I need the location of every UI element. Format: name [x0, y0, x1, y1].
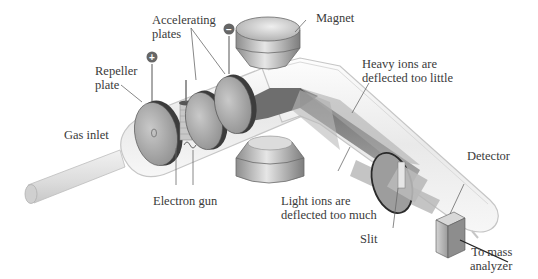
label-detector: Detector — [467, 149, 510, 163]
repeller-terminal: + — [147, 52, 158, 103]
label-slit: Slit — [360, 232, 377, 246]
label-light-ions: Light ions are deflected too much — [281, 194, 377, 222]
accelerator-terminal: − — [224, 24, 235, 75]
label-gas-inlet: Gas inlet — [64, 128, 109, 142]
label-electron-gun: Electron gun — [153, 194, 217, 208]
label-magnet: Magnet — [316, 11, 354, 25]
label-to-mass-analyzer: To mass analyzer — [470, 245, 512, 273]
detector — [436, 212, 465, 258]
label-repeller-plate: Repeller plate — [95, 64, 137, 92]
magnet-lower — [236, 136, 304, 183]
label-heavy-ions: Heavy ions are deflected too little — [362, 57, 453, 85]
minus-sign: − — [226, 24, 232, 35]
gas-inlet-pipe — [25, 150, 125, 204]
plus-sign: + — [149, 52, 155, 63]
label-accelerating-plates: Accelerating plates — [152, 13, 216, 41]
mass-spectrometer-diagram: + − — [0, 0, 538, 279]
